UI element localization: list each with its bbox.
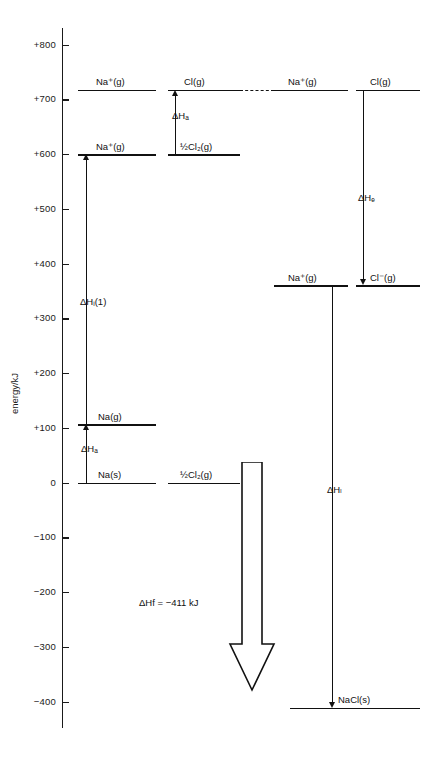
level-label-na-plus-600: Na⁺(g)	[96, 141, 125, 152]
y-tick-label-300: +300	[12, 313, 56, 323]
arrow-head-atomisation-cl	[172, 90, 178, 96]
arrow-shaft-electron-affinity	[363, 91, 364, 280]
level-label-na-plus-col3-720: Na⁺(g)	[288, 76, 317, 87]
y-tick-label-700: +700	[12, 94, 56, 104]
y-tick-label-m200: −200	[12, 587, 56, 597]
level-na-plus-col3-360	[274, 285, 348, 287]
y-tick-100	[62, 428, 69, 429]
arrow-label-electron-affinity: ΔHₑ	[358, 192, 375, 203]
level-na-g	[78, 424, 156, 426]
y-axis-line	[62, 28, 63, 728]
level-na-plus-col3-720	[274, 90, 348, 92]
level-label-cl-g-col2: Cl(g)	[184, 76, 205, 87]
arrow-label-formation: ΔHf = −411 kJ	[139, 597, 199, 608]
level-na-s	[78, 483, 156, 485]
y-tick-800	[62, 45, 69, 46]
level-label-na-g: Na(g)	[98, 411, 122, 422]
y-tick-label-400: +400	[12, 259, 56, 269]
arrow-label-atomisation-na: ΔHₐ	[81, 443, 98, 454]
y-tick-label-200: +200	[12, 368, 56, 378]
y-tick-500	[62, 209, 69, 210]
arrow-label-ionisation-na: ΔHᵢ(1)	[80, 296, 106, 307]
level-label-na-plus-col3-360: Na⁺(g)	[288, 272, 317, 283]
y-tick-400	[62, 264, 69, 265]
formation-arrow-outline	[230, 462, 274, 690]
y-tick-m100	[62, 537, 69, 538]
born-haber-cycle-diagram: energy/kJ +800 +700 +600 +500 +400 +300 …	[0, 0, 428, 757]
arrow-shaft-ionisation-na	[86, 159, 87, 425]
y-tick-label-0: 0	[12, 478, 56, 488]
y-tick-m400	[62, 702, 69, 703]
y-tick-label-m400: −400	[12, 697, 56, 707]
level-cl-g-col2	[168, 90, 240, 92]
level-label-half-cl2-0: ½Cl₂(g)	[180, 469, 212, 480]
level-cl-minus-360	[356, 285, 420, 287]
arrow-head-electron-affinity	[360, 279, 366, 285]
level-label-cl-minus-360: Cl⁻(g)	[370, 272, 396, 283]
level-nacl-s	[290, 708, 420, 710]
y-tick-300	[62, 318, 69, 319]
y-tick-label-500: +500	[12, 204, 56, 214]
y-tick-m200	[62, 592, 69, 593]
dashed-connector-na-plus	[240, 90, 274, 91]
y-tick-label-m300: −300	[12, 642, 56, 652]
y-tick-label-m100: −100	[12, 532, 56, 542]
arrow-label-lattice: ΔHₗ	[327, 484, 342, 495]
arrow-shaft-atomisation-cl	[175, 95, 176, 155]
level-label-nacl-s: NaCl(s)	[338, 694, 370, 705]
arrow-head-ionisation-na	[83, 154, 89, 160]
level-label-na-s: Na(s)	[98, 469, 121, 480]
level-na-plus-600	[78, 154, 156, 156]
arrow-head-lattice	[329, 702, 335, 708]
level-na-plus-720	[78, 90, 156, 92]
level-cl-g-col4	[356, 90, 420, 92]
level-half-cl2-600	[168, 154, 240, 156]
y-tick-label-800: +800	[12, 40, 56, 50]
level-label-half-cl2-600: ½Cl₂(g)	[180, 141, 212, 152]
y-tick-label-100: +100	[12, 423, 56, 433]
y-tick-200	[62, 373, 69, 374]
level-label-na-plus-720: Na⁺(g)	[96, 76, 125, 87]
y-tick-600	[62, 154, 69, 155]
y-tick-label-600: +600	[12, 149, 56, 159]
level-label-cl-g-col4: Cl(g)	[370, 76, 391, 87]
y-tick-m300	[62, 647, 69, 648]
formation-enthalpy-arrow	[228, 462, 276, 692]
y-tick-700	[62, 99, 69, 100]
y-tick-0	[62, 483, 69, 484]
arrow-shaft-atomisation-na	[86, 429, 87, 484]
arrow-label-atomisation-cl: ΔHₐ	[172, 110, 189, 121]
